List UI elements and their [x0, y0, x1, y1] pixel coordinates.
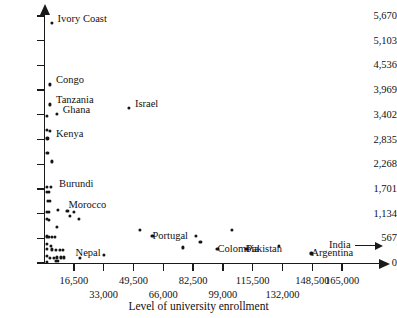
y-axis-tick-mark: [37, 114, 45, 115]
y-axis-tick-label: 2,835: [361, 135, 397, 146]
x-axis-tick-mark: [73, 263, 74, 271]
y-axis-tick-mark: [37, 213, 45, 214]
india-arrow-line: [355, 245, 377, 246]
data-point: [199, 240, 202, 243]
data-point: [127, 106, 130, 109]
data-point: [49, 244, 52, 247]
data-point: [50, 160, 53, 163]
data-point: [48, 83, 51, 86]
y-axis-arrow-icon: [40, 4, 50, 15]
y-axis-tick-label: 5,103: [361, 36, 397, 47]
x-axis-tick-label: 33,000: [89, 290, 118, 301]
data-point-label: Burundi: [59, 179, 93, 190]
y-axis-tick-mark: [37, 262, 45, 263]
data-point: [54, 235, 57, 238]
data-point: [78, 217, 81, 220]
data-point: [230, 228, 233, 231]
x-axis-tick-mark: [312, 263, 313, 271]
x-axis-tick-label: 82,500: [179, 276, 208, 287]
x-axis-tick-mark: [222, 263, 223, 271]
india-arrow-icon: [375, 242, 383, 250]
y-axis-tick-mark: [37, 40, 45, 41]
data-point-label: Ghana: [63, 105, 90, 116]
data-point: [194, 234, 197, 237]
y-axis-tick-label: 5,670: [361, 11, 397, 22]
x-axis-tick-label: 99,000: [208, 290, 237, 301]
data-point: [56, 225, 59, 228]
y-axis-tick-label: 2,268: [361, 159, 397, 170]
x-axis-tick-mark: [282, 263, 283, 271]
data-point-label: Nepal: [76, 248, 101, 259]
data-point-label: Pakistan: [246, 244, 282, 255]
x-axis-tick-label: 165,000: [325, 276, 359, 287]
x-axis-tick-mark: [341, 263, 342, 271]
data-point: [102, 253, 105, 256]
y-axis-tick-label: 0: [361, 258, 397, 269]
x-axis-tick-label: 49,500: [119, 276, 148, 287]
x-axis-tick-label: 16,500: [59, 276, 88, 287]
x-axis-tick-mark: [252, 263, 253, 271]
x-axis-tick-mark: [103, 263, 104, 271]
data-point: [48, 103, 51, 106]
data-point-label: Portugal: [152, 231, 188, 242]
y-axis-tick-label: 3,969: [361, 85, 397, 96]
data-point: [46, 114, 49, 117]
x-axis-tick-mark: [163, 263, 164, 271]
data-point-label: Congo: [56, 75, 84, 86]
x-axis-tick-mark: [133, 263, 134, 271]
y-axis-tick-mark: [37, 188, 45, 189]
data-point: [182, 246, 185, 249]
data-point: [47, 219, 50, 222]
data-point: [50, 21, 53, 24]
data-point: [69, 214, 72, 217]
data-point: [47, 210, 50, 213]
data-point-label: Morocco: [68, 200, 106, 211]
x-axis-tick-label: 115,500: [236, 276, 270, 287]
data-point: [49, 199, 52, 202]
data-point: [54, 248, 57, 251]
x-axis-tick-mark: [192, 263, 193, 271]
data-point-label: Israel: [135, 99, 158, 110]
y-axis-tick-mark: [37, 139, 45, 140]
data-point: [46, 137, 49, 140]
data-point: [55, 112, 58, 115]
data-point: [49, 186, 52, 189]
y-axis-tick-label: 1,701: [361, 184, 397, 195]
data-point: [63, 256, 66, 259]
data-point: [55, 256, 58, 259]
y-axis-tick-mark: [37, 65, 45, 66]
y-axis-tick-label: 3,402: [361, 110, 397, 121]
y-axis-tick-mark: [37, 89, 45, 90]
data-point: [47, 190, 50, 193]
data-point: [45, 247, 48, 250]
y-axis-tick-label: 4,536: [361, 60, 397, 71]
data-point: [49, 129, 52, 132]
y-axis-tick-mark: [37, 238, 45, 239]
x-axis-tick-label: 66,000: [149, 290, 178, 301]
india-annotation-label: India: [329, 239, 351, 250]
x-axis-title: Level of university enrollment: [0, 300, 397, 312]
scatter-chart: 05671,1341,7012,2682,8353,4023,9694,5365…: [0, 0, 397, 318]
data-point: [56, 209, 59, 212]
data-point: [138, 228, 141, 231]
data-point-label: Ivory Coast: [58, 14, 107, 25]
data-point-label: Kenya: [56, 129, 83, 140]
data-point: [50, 248, 53, 251]
data-point: [48, 256, 51, 259]
x-axis-line: [44, 263, 380, 264]
y-axis-tick-mark: [37, 15, 45, 16]
data-point: [61, 248, 64, 251]
x-axis-tick-label: 132,000: [265, 290, 299, 301]
y-axis-tick-label: 1,134: [361, 209, 397, 220]
data-point: [46, 151, 49, 154]
y-axis-tick-mark: [37, 164, 45, 165]
